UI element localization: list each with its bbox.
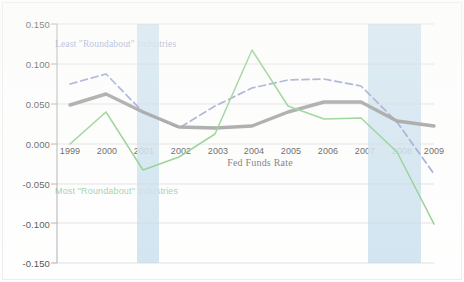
chart-plot-area <box>0 0 464 282</box>
shaded-band-recession-2001 <box>137 24 159 263</box>
chart-root: 0.150 0.100 0.050 0.000 -0.050 -0.100 -0… <box>0 0 464 282</box>
y-axis <box>51 24 57 263</box>
